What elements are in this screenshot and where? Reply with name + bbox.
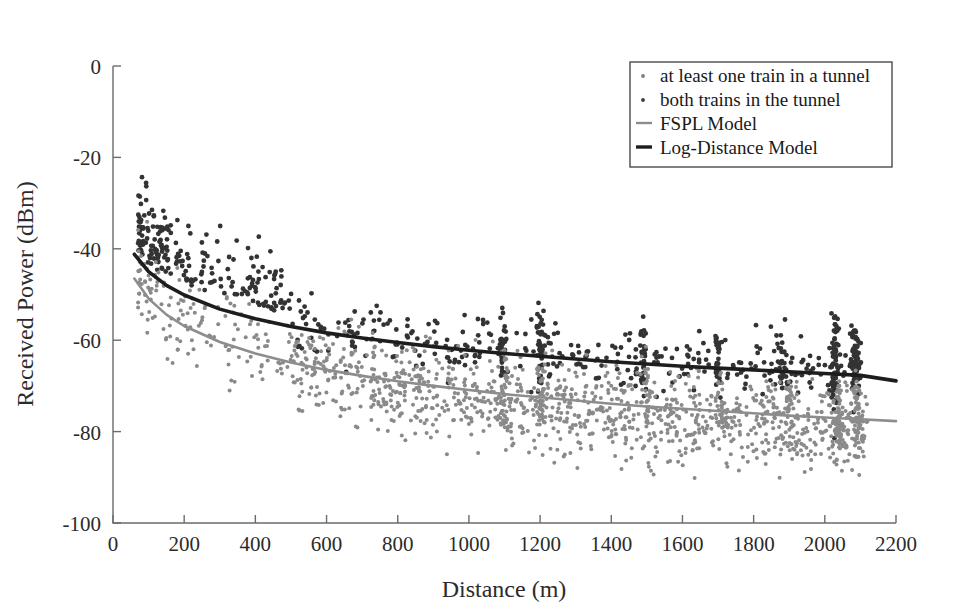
scatter-point-at-least-one-train xyxy=(535,367,539,371)
scatter-point-at-least-one-train xyxy=(475,365,479,369)
scatter-point-at-least-one-train xyxy=(395,405,399,409)
scatter-point-at-least-one-train xyxy=(558,437,562,441)
scatter-point-at-least-one-train xyxy=(764,462,768,466)
scatter-point-both-trains xyxy=(229,284,234,289)
scatter-point-at-least-one-train xyxy=(228,302,232,306)
scatter-point-at-least-one-train xyxy=(837,421,841,425)
scatter-point-both-trains xyxy=(731,363,736,368)
scatter-point-both-trains xyxy=(853,328,858,333)
scatter-point-both-trains xyxy=(725,376,730,381)
scatter-point-at-least-one-train xyxy=(613,428,617,432)
scatter-point-both-trains xyxy=(225,267,230,272)
scatter-point-at-least-one-train xyxy=(665,397,669,401)
scatter-point-at-least-one-train xyxy=(526,390,530,394)
scatter-point-at-least-one-train xyxy=(369,405,373,409)
scatter-point-at-least-one-train xyxy=(773,445,777,449)
scatter-point-at-least-one-train xyxy=(474,338,478,342)
scatter-point-both-trains xyxy=(309,291,314,296)
scatter-point-at-least-one-train xyxy=(594,386,598,390)
x-tick-label: 400 xyxy=(240,532,272,556)
scatter-point-at-least-one-train xyxy=(145,220,149,224)
y-axis-title: Received Power (dBm) xyxy=(12,181,38,406)
scatter-point-at-least-one-train xyxy=(845,384,849,388)
scatter-point-at-least-one-train xyxy=(691,448,695,452)
scatter-point-at-least-one-train xyxy=(543,420,547,424)
scatter-point-at-least-one-train xyxy=(503,425,507,429)
scatter-point-at-least-one-train xyxy=(493,397,497,401)
scatter-point-both-trains xyxy=(400,345,405,350)
scatter-point-at-least-one-train xyxy=(720,426,724,430)
legend-item[interactable]: Log-Distance Model xyxy=(636,137,818,158)
scatter-point-both-trains xyxy=(202,288,207,293)
scatter-point-at-least-one-train xyxy=(790,457,794,461)
scatter-point-at-least-one-train xyxy=(695,416,699,420)
scatter-point-at-least-one-train xyxy=(307,336,311,340)
scatter-point-both-trains xyxy=(144,198,149,203)
scatter-point-at-least-one-train xyxy=(425,397,429,401)
scatter-point-at-least-one-train xyxy=(532,438,536,442)
scatter-point-at-least-one-train xyxy=(443,409,447,413)
scatter-point-at-least-one-train xyxy=(457,402,461,406)
scatter-point-at-least-one-train xyxy=(403,372,407,376)
legend-item[interactable]: at least one train in a tunnel xyxy=(641,65,870,86)
scatter-point-both-trains xyxy=(663,346,668,351)
scatter-point-at-least-one-train xyxy=(526,429,530,433)
scatter-point-at-least-one-train xyxy=(574,392,578,396)
scatter-point-at-least-one-train xyxy=(835,439,839,443)
scatter-point-both-trains xyxy=(156,253,161,258)
scatter-point-at-least-one-train xyxy=(169,296,173,300)
scatter-point-both-trains xyxy=(263,300,268,305)
scatter-point-at-least-one-train xyxy=(690,413,694,417)
scatter-point-at-least-one-train xyxy=(738,403,742,407)
scatter-point-both-trains xyxy=(269,293,274,298)
scatter-point-at-least-one-train xyxy=(396,401,400,405)
scatter-point-at-least-one-train xyxy=(587,412,591,416)
scatter-point-both-trains xyxy=(420,362,425,367)
scatter-point-at-least-one-train xyxy=(619,399,623,403)
scatter-point-at-least-one-train xyxy=(665,403,669,407)
scatter-point-both-trains xyxy=(640,350,645,355)
scatter-point-at-least-one-train xyxy=(402,394,406,398)
scatter-point-both-trains xyxy=(178,249,183,254)
scatter-point-at-least-one-train xyxy=(409,419,413,423)
scatter-point-both-trains xyxy=(204,232,209,237)
legend-item[interactable]: both trains in the tunnel xyxy=(641,89,840,110)
scatter-point-at-least-one-train xyxy=(745,405,749,409)
scatter-point-at-least-one-train xyxy=(785,395,789,399)
scatter-point-at-least-one-train xyxy=(857,446,861,450)
scatter-point-at-least-one-train xyxy=(600,384,604,388)
scatter-point-at-least-one-train xyxy=(463,353,467,357)
scatter-point-both-trains xyxy=(762,360,767,365)
scatter-point-at-least-one-train xyxy=(460,408,464,412)
scatter-point-at-least-one-train xyxy=(620,427,624,431)
scatter-point-both-trains xyxy=(816,363,821,368)
scatter-point-at-least-one-train xyxy=(649,469,653,473)
scatter-point-at-least-one-train xyxy=(537,433,541,437)
scatter-point-at-least-one-train xyxy=(290,354,294,358)
scatter-point-both-trains xyxy=(716,356,721,361)
scatter-point-at-least-one-train xyxy=(428,389,432,393)
scatter-point-at-least-one-train xyxy=(705,427,709,431)
scatter-point-both-trains xyxy=(476,333,481,338)
scatter-point-at-least-one-train xyxy=(209,343,213,347)
scatter-point-at-least-one-train xyxy=(647,465,651,469)
scatter-point-both-trains xyxy=(633,355,638,360)
scatter-point-at-least-one-train xyxy=(678,439,682,443)
scatter-point-at-least-one-train xyxy=(627,420,631,424)
scatter-point-at-least-one-train xyxy=(697,393,701,397)
scatter-point-both-trains xyxy=(150,244,155,249)
scatter-point-at-least-one-train xyxy=(371,351,375,355)
x-tick-label: 0 xyxy=(108,532,119,556)
scatter-point-at-least-one-train xyxy=(591,411,595,415)
scatter-point-at-least-one-train xyxy=(827,403,831,407)
scatter-point-both-trains xyxy=(249,256,254,261)
scatter-point-both-trains xyxy=(652,352,657,357)
scatter-point-both-trains xyxy=(257,277,262,282)
scatter-point-both-trains xyxy=(377,317,382,322)
scatter-point-at-least-one-train xyxy=(589,444,593,448)
scatter-point-at-least-one-train xyxy=(820,410,824,414)
scatter-point-at-least-one-train xyxy=(602,428,606,432)
scatter-point-at-least-one-train xyxy=(809,467,813,471)
scatter-point-at-least-one-train xyxy=(827,447,831,451)
scatter-point-at-least-one-train xyxy=(767,388,771,392)
